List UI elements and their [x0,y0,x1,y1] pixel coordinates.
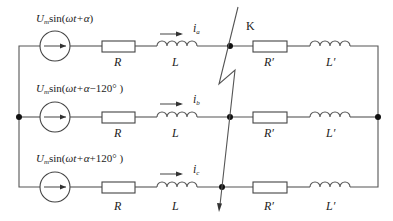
inductor-L2-b [310,112,350,117]
inductor-L2-c [310,182,350,187]
label-L2-a: L′ [326,56,335,68]
resistor-R-a [102,41,135,52]
inductor-L-a [157,41,197,46]
resistor-R-c [102,182,135,193]
label-R-c: R [114,200,121,212]
label-L-a: L [172,56,179,68]
fault-line-K [217,7,238,212]
label-R2-c: R′ [264,200,274,212]
label-R2-a: R′ [264,56,274,68]
resistor-R2-a [253,41,287,52]
current-label-a: ia [193,22,200,36]
source-label-a: Umsin(ωt+α) [36,13,93,26]
label-L2-b: L′ [326,127,335,139]
left-neutral-node [16,114,22,120]
inductor-L-c [157,182,197,187]
current-label-c: ic [193,163,199,177]
inductor-L-b [157,112,197,117]
label-R-b: R [114,127,121,139]
inductor-L2-a [310,41,350,46]
source-label-b: Umsin(ωt+α−120° ) [36,83,123,96]
resistor-R2-b [253,112,287,123]
label-L-b: L [172,127,179,139]
label-R-a: R [114,56,121,68]
resistor-R2-c [253,182,287,193]
resistor-R-b [102,112,135,123]
label-L2-c: L′ [326,200,335,212]
source-label-c: Umsin(ωt+α+120° ) [36,153,123,166]
fault-label-K: K [246,20,255,32]
label-R2-b: R′ [264,127,274,139]
current-label-b: ib [193,93,200,107]
right-neutral-node [375,114,381,120]
label-L-c: L [172,200,179,212]
